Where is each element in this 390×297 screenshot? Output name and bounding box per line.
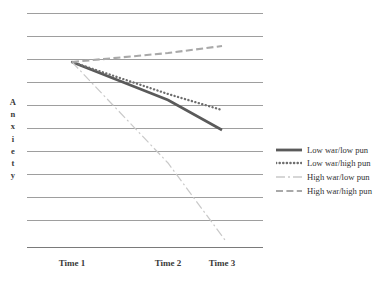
series-line-high-war-low-pun — [72, 62, 225, 240]
series-line-high-war-high-pun — [72, 46, 222, 62]
series-line-low-war-low-pun — [72, 62, 222, 130]
legend-item-low-war-high-pun: Low war/high pun — [276, 157, 388, 171]
y-axis-title-letter: e — [4, 145, 22, 157]
figure-caption — [16, 289, 382, 297]
y-axis-title-letter: t — [4, 157, 22, 169]
chart-figure: A n x i e t y Time 1 Time 2 Time 3 Low w… — [0, 0, 390, 297]
y-axis-title-letter: i — [4, 133, 22, 145]
legend-swatch-dotted-line — [276, 158, 302, 168]
legend-swatch-dash-dot-line — [276, 172, 302, 182]
legend-item-high-war-high-pun: High war/high pun — [276, 184, 388, 198]
legend-label: Low war/high pun — [307, 158, 371, 168]
legend-swatch-solid-line — [276, 145, 302, 155]
y-axis-title-letter: n — [4, 108, 22, 120]
y-axis-title-letter: A — [4, 96, 22, 108]
y-axis-title-letter: x — [4, 120, 22, 132]
x-tick-label-time-3: Time 3 — [192, 258, 252, 268]
legend-item-high-war-low-pun: High war/low pun — [276, 170, 388, 184]
legend-swatch-dashed-line — [276, 186, 302, 196]
y-axis-title: A n x i e t y — [4, 96, 22, 181]
y-axis-title-letter: y — [4, 169, 22, 181]
legend-item-low-war-low-pun: Low war/low pun — [276, 143, 388, 157]
series-line-low-war-high-pun — [72, 62, 222, 110]
legend-label: Low war/low pun — [307, 145, 368, 155]
x-tick-label-time-2: Time 2 — [138, 258, 198, 268]
legend-label: High war/low pun — [307, 172, 370, 182]
legend-label: High war/high pun — [307, 186, 372, 196]
chart-legend: Low war/low pun Low war/high pun High wa… — [276, 143, 388, 197]
x-tick-label-time-1: Time 1 — [42, 258, 102, 268]
